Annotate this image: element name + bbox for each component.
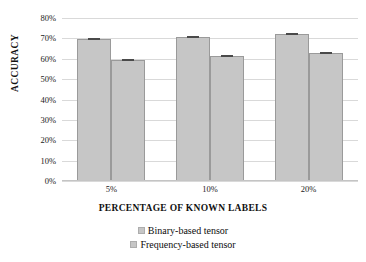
y-axis-tick-label: 20%	[26, 136, 56, 145]
bar	[275, 34, 309, 181]
error-bar-cap	[122, 59, 134, 61]
y-axis-tick-labels: 0%10%20%30%40%50%60%70%80%	[22, 18, 56, 181]
y-axis-tick-label: 60%	[26, 55, 56, 64]
gridline	[62, 181, 358, 182]
x-axis-tick-label: 5%	[106, 185, 117, 194]
x-axis-tick-label: 20%	[301, 185, 317, 194]
error-bar-cap	[88, 38, 100, 40]
error-bar-cap	[286, 33, 298, 35]
y-axis-tick-label: 30%	[26, 116, 56, 125]
x-axis-title: PERCENTAGE OF KNOWN LABELS	[0, 203, 366, 213]
y-axis-tick-label: 50%	[26, 75, 56, 84]
legend-item: Binary-based tensor	[138, 224, 228, 237]
y-axis-tick-label: 70%	[26, 34, 56, 43]
x-axis-tick-labels: 5%10%20%	[62, 185, 358, 199]
bar-chart: ACCURACY 0%10%20%30%40%50%60%70%80% 5%10…	[0, 0, 366, 262]
y-axis-tick-label: 10%	[26, 156, 56, 165]
legend-label: Binary-based tensor	[148, 226, 228, 236]
legend-label: Frequency-based tensor	[140, 240, 235, 250]
chart-legend: Binary-based tensorFrequency-based tenso…	[0, 224, 366, 251]
legend-swatch-icon	[138, 227, 145, 234]
error-bar-cap	[320, 52, 332, 54]
legend-item: Frequency-based tensor	[130, 238, 235, 251]
bar	[111, 60, 145, 181]
bar	[210, 56, 244, 181]
x-axis-tick-label: 10%	[202, 185, 218, 194]
bar	[176, 37, 210, 181]
plot-area	[62, 18, 358, 181]
bar	[77, 39, 111, 181]
error-bar-cap	[187, 36, 199, 38]
y-axis-tick-label: 0%	[26, 177, 56, 186]
y-axis-tick-label: 40%	[26, 95, 56, 104]
y-axis-tick-label: 80%	[26, 14, 56, 23]
x-axis-line	[62, 180, 358, 181]
gridline	[62, 18, 358, 19]
legend-swatch-icon	[130, 241, 137, 248]
error-bar-cap	[221, 55, 233, 57]
bar	[309, 53, 343, 181]
